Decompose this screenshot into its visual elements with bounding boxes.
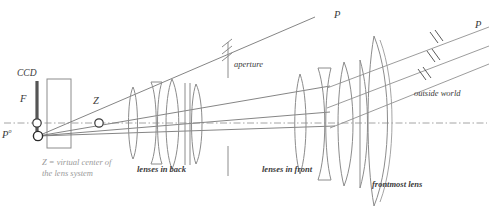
ray-point-label-mid: P — [334, 9, 340, 21]
lenses-in-back-label: lenses in back — [137, 165, 186, 175]
virtual-center-marker — [95, 119, 103, 127]
virtual-center-label: Z — [93, 95, 99, 107]
legend-line-1: Z = virtual center of — [42, 158, 111, 168]
outside-world-label: outside world — [414, 89, 461, 99]
ray-bundle-from-principal-point — [38, 17, 335, 136]
principal-point-superscript: o — [8, 128, 11, 134]
aperture-stop — [222, 39, 232, 176]
optical-diagram-figure: .g {stroke:#8c8c8c;fill:none;stroke-widt… — [0, 0, 493, 211]
focal-point-label: F — [20, 93, 26, 105]
aperture-label: aperture — [234, 60, 263, 70]
ray-point-label-right: P — [475, 19, 481, 31]
lenses-in-front-label: lenses in front — [262, 165, 312, 175]
ccd-label: CCD — [17, 68, 37, 79]
ray-hash-marks — [418, 30, 443, 80]
frontmost-lens-label: frontmost lens — [372, 180, 422, 190]
focal-point-marker — [33, 119, 41, 127]
legend-line-2: the lens system — [42, 169, 93, 179]
principal-point-label: Po — [2, 128, 11, 141]
ray-bundle-outside-world — [327, 27, 489, 128]
cover-glass-block — [47, 79, 71, 148]
principal-point-marker — [33, 131, 42, 140]
